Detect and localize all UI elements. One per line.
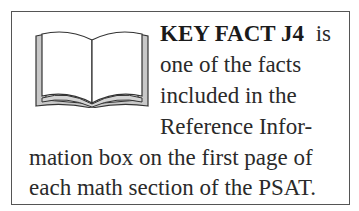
callout-line-2: one of the facts <box>160 49 301 80</box>
callout-line-6: each math section of the PSAT. <box>29 172 316 203</box>
callout-line-4: Reference Infor- <box>160 111 312 142</box>
open-book-icon <box>32 28 152 108</box>
callout-text-1: is <box>316 21 331 46</box>
callout-line-5: mation box on the first page of <box>29 142 313 173</box>
callout-line-1: KEY FACT J4 is <box>160 18 331 49</box>
key-fact-heading: KEY FACT J4 <box>160 21 304 46</box>
callout-line-3: included in the <box>160 80 297 111</box>
